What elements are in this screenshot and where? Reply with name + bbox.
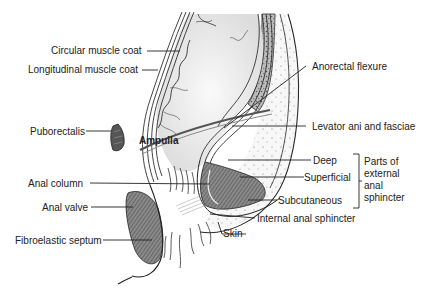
anal-verge-shading [176, 196, 206, 215]
label-fibroelastic-septum: Fibroelastic septum [15, 235, 102, 246]
label-deep: Deep [313, 155, 337, 166]
label-anal-valve: Anal valve [42, 202, 88, 213]
label-skin: Skin [223, 228, 242, 239]
left-sphincter-mass [126, 191, 163, 263]
label-anal-column: Anal column [28, 178, 83, 189]
label-subcutaneous: Subcutaneous [278, 195, 342, 206]
bracket-line-1: Parts of [364, 156, 405, 168]
label-anorectal-flexure: Anorectal flexure [312, 61, 387, 72]
label-levator-ani: Levator ani and fasciae [312, 121, 415, 132]
sphincter-parts-bracket [353, 154, 362, 208]
bracket-line-3: anal [364, 180, 405, 192]
anatomy-diagram: Circular muscle coat Longitudinal muscle… [0, 0, 436, 294]
rectal-lumen [157, 14, 264, 172]
label-ampulla: Ampulla [139, 135, 178, 146]
perianal-skin [164, 222, 211, 268]
label-puborectalis: Puborectalis [30, 126, 85, 137]
label-circular-muscle-coat: Circular muscle coat [51, 45, 142, 56]
label-longitudinal-muscle-coat: Longitudinal muscle coat [28, 64, 138, 75]
label-superficial: Superficial [304, 172, 351, 183]
label-parts-of-external-anal-sphincter: Parts of external anal sphincter [364, 156, 405, 204]
label-internal-anal-sphincter: Internal anal sphincter [257, 213, 355, 224]
bracket-line-4: sphincter [364, 192, 405, 204]
bracket-line-2: external [364, 168, 405, 180]
